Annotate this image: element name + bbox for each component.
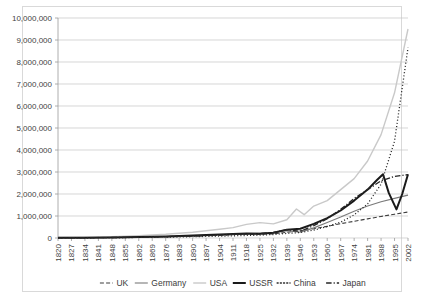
x-axis-tick-label: 1925 [256,243,265,261]
legend-label-uk: UK [116,278,128,288]
chart-figure: 01,000,0002,000,0003,000,0004,000,0005,0… [0,0,424,304]
x-axis-tick-label: 1841 [94,243,103,261]
x-axis-tick-label: 1848 [108,243,117,261]
x-axis-tick-label: 2002 [404,243,413,261]
x-axis-tick-label: 1946 [296,243,305,261]
x-axis-tick-label: 1876 [162,243,171,261]
series-line-japan [58,175,408,238]
x-axis-tick-label: 1932 [269,243,278,261]
legend-label-usa: USA [210,278,228,288]
x-axis-tick-label: 1995 [391,243,400,261]
y-axis-tick-label: 10,000,000 [12,14,53,23]
x-axis-tick-label: 1974 [350,243,359,261]
series-group [58,29,408,238]
x-axis-tick-label: 1890 [189,243,198,261]
y-axis-tick-label: 2,000,000 [16,190,52,199]
legend-label-germany: Germany [151,278,187,288]
x-axis-tick-label: 1834 [81,243,90,261]
x-axis-tick-label: 1953 [310,243,319,261]
x-axis-tick-label: 1981 [364,243,373,261]
x-axis-tick-label: 1820 [54,243,63,261]
x-axis-tick-label: 1862 [135,243,144,261]
y-axis-tick-label: 3,000,000 [16,168,52,177]
y-axis-tick-label: 1,000,000 [16,212,52,221]
xtick-labels-group: 1820182718341841184818551862186918761883… [54,243,413,261]
gridlines-group [58,18,408,238]
y-axis-tick-label: 9,000,000 [16,36,52,45]
x-axis-tick-label: 1939 [283,243,292,261]
x-axis-tick-label: 1883 [175,243,184,261]
x-axis-tick-label: 1904 [216,243,225,261]
x-axis-tick-label: 1869 [148,243,157,261]
legend-label-ussr: USSR [249,278,273,288]
series-line-germany [58,195,408,238]
x-axis-tick-label: 1897 [202,243,211,261]
legend-label-china: China [294,278,316,288]
x-axis-tick-label: 1918 [242,243,251,261]
x-axis-tick-label: 1855 [121,243,130,261]
x-axis-tick-label: 1988 [377,243,386,261]
series-line-china [58,48,408,238]
ytick-labels-group: 01,000,0002,000,0003,000,0004,000,0005,0… [12,14,53,243]
y-axis-tick-label: 4,000,000 [16,146,52,155]
x-axis-tick-label: 1967 [337,243,346,261]
y-axis-tick-label: 7,000,000 [16,80,52,89]
y-axis-tick-label: 8,000,000 [16,58,52,67]
x-axis-tick-label: 1960 [323,243,332,261]
y-axis-tick-label: 0 [48,234,53,243]
series-line-usa [58,29,408,238]
legend-group: UKGermanyUSAUSSRChinaJapan [100,278,366,288]
legend-label-japan: Japan [343,278,366,288]
axes-group [55,18,408,241]
x-axis-tick-label: 1827 [67,243,76,261]
x-axis-tick-label: 1911 [229,243,238,261]
line-chart: 01,000,0002,000,0003,000,0004,000,0005,0… [0,0,424,304]
y-axis-tick-label: 5,000,000 [16,124,52,133]
y-axis-tick-label: 6,000,000 [16,102,52,111]
